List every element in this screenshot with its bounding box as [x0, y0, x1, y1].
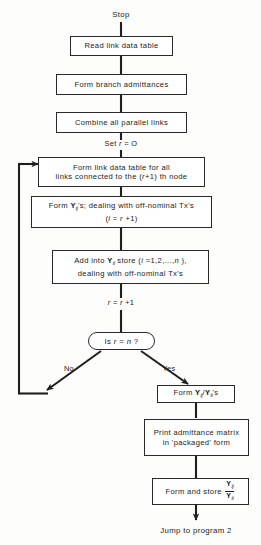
decision-eq: =: [117, 337, 127, 346]
ratio-suffix: 's: [213, 388, 219, 397]
flowchart-diagram: Stop Read link data table Form branch ad…: [0, 0, 261, 545]
set-r-prefix: Set: [105, 139, 120, 148]
process-read-link-data-table-label: Read link data table: [84, 41, 158, 51]
process-form-and-store-ratio-label: Form and store YijYii: [166, 481, 236, 502]
process-form-yij-over-yii-label: Form Yij/Yii's: [173, 388, 218, 401]
process-add-into-yii-line1: Add into Yii store (i =1,2,...,n ),: [74, 256, 187, 269]
fraction-denominator: Yii: [225, 492, 234, 502]
yij-suffix: 's; dealing with off-nominal Tx's: [78, 201, 194, 210]
process-combine-parallel-links[interactable]: Combine all parallel links: [56, 112, 187, 133]
process-form-yij-line1: Form Yij's; dealing with off-nominal Tx'…: [49, 201, 194, 214]
process-form-and-store-ratio[interactable]: Form and store YijYii: [152, 478, 249, 505]
yii-store-text: store (: [115, 256, 141, 265]
fraction-yij-over-yii: YijYii: [225, 480, 234, 501]
edge-label-set-r-zero-text: Set r = O: [105, 140, 138, 149]
edge-label-branch-yes-text: Yes: [162, 365, 175, 374]
edge-label-branch-no: No: [58, 364, 80, 375]
process-form-yij-line2: (i = r +1): [105, 214, 137, 224]
link-line2-prefix: links connected to the (: [56, 172, 143, 181]
link-line2-suffix: +1) th node: [145, 172, 187, 181]
process-form-link-data-table-line1: Form link data table for all: [73, 163, 170, 173]
set-r-value: = O: [122, 139, 138, 148]
terminal-end-text: Jump to program 2: [160, 526, 231, 535]
decision-is-r-equals-n-label: Is r = n ?: [104, 337, 138, 346]
process-print-admittance-matrix[interactable]: Print admittance matrix in 'packaged' fo…: [144, 419, 249, 456]
edge-label-increment-r: r = r +1: [92, 297, 150, 309]
yij-prefix: Form: [49, 201, 71, 210]
yii-close: ),: [179, 256, 187, 265]
fraction-num-subscript: ij: [231, 484, 233, 490]
decision-prefix: Is: [104, 337, 113, 346]
process-form-link-data-table-line2: links connected to the (r+1) th node: [56, 172, 188, 182]
process-form-yij-over-yii[interactable]: Form Yij/Yii's: [157, 385, 235, 403]
process-print-admittance-matrix-line2: in 'packaged' form: [163, 438, 230, 448]
terminal-start-label: Stop: [96, 8, 146, 21]
yii-range: =1,2,...,: [143, 256, 174, 265]
edge-label-branch-yes: Yes: [157, 364, 181, 375]
incr-r-plus: +1: [123, 298, 135, 307]
yii-prefix: Add into: [74, 256, 107, 265]
terminal-start-text: Stop: [112, 10, 129, 19]
decision-is-r-equals-n[interactable]: Is r = n ?: [88, 332, 155, 350]
process-add-into-yii-line2: dealing with off-nominal Tx's: [78, 269, 183, 279]
fraction-numerator: Yij: [225, 480, 234, 491]
process-read-link-data-table[interactable]: Read link data table: [70, 36, 173, 56]
process-combine-parallel-links-label: Combine all parallel links: [75, 118, 168, 128]
fraction-den-subscript: ii: [231, 495, 233, 501]
process-print-admittance-matrix-line1: Print admittance matrix: [154, 428, 240, 438]
edge-label-increment-r-text: r = r +1: [108, 299, 135, 308]
store-prefix: Form and store: [166, 487, 225, 496]
terminal-end-label: Jump to program 2: [146, 524, 246, 537]
yij-l2-close: +1): [123, 214, 138, 223]
ratio-prefix: Form: [173, 388, 195, 397]
yij-l2-eq: =: [110, 214, 120, 223]
incr-r-eq: =: [110, 298, 119, 307]
process-form-branch-admittances[interactable]: Form branch admittances: [56, 74, 187, 95]
process-add-into-yii-store[interactable]: Add into Yii store (i =1,2,...,n ), deal…: [52, 250, 209, 284]
decision-qmark: ?: [131, 337, 138, 346]
process-form-branch-admittances-label: Form branch admittances: [74, 80, 168, 90]
process-form-link-data-table[interactable]: Form link data table for all links conne…: [38, 157, 205, 187]
edge-label-set-r-zero: Set r = O: [86, 138, 156, 150]
edge-label-branch-no-text: No: [64, 365, 74, 374]
process-form-yij[interactable]: Form Yij's; dealing with off-nominal Tx'…: [31, 196, 212, 228]
